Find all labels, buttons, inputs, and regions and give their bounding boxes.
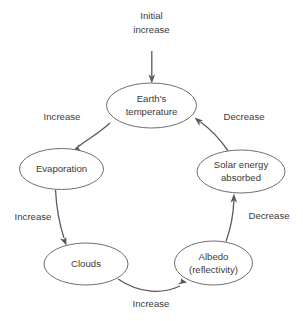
edge-solar-to-temperature xyxy=(195,118,229,151)
edge-label-evaporation-to-clouds: Increase xyxy=(15,211,52,222)
node-label-clouds: Clouds xyxy=(71,258,101,269)
edge-evaporation-to-clouds xyxy=(56,190,67,246)
node-evaporation[interactable]: Evaporation xyxy=(20,149,104,190)
edge-label-albedo-to-solar: Decrease xyxy=(248,210,289,221)
node-label-solar-energy-absorbed-line-2: absorbed xyxy=(221,172,261,183)
node-label-earths-temperature-line-2: temperature xyxy=(126,106,178,117)
edge-arrow-head-solar-to-temperature xyxy=(195,118,204,127)
input-arrow-initial-increase xyxy=(149,51,155,84)
node-label-albedo-reflectivity-line-1: Albedo xyxy=(199,251,229,262)
edge-line-solar-to-temperature xyxy=(201,122,229,151)
node-label-solar-energy-absorbed-line-1: Solar energy xyxy=(214,159,269,170)
diagram-canvas: Initial increase Increase Increase Incre… xyxy=(0,0,303,321)
node-label-evaporation: Evaporation xyxy=(36,163,87,174)
edge-label-temperature-to-evaporation: Increase xyxy=(44,111,81,122)
input-label-line-1: Initial xyxy=(140,10,162,21)
edge-albedo-to-solar xyxy=(226,194,237,242)
node-solar-energy-absorbed[interactable]: Solar energy absorbed xyxy=(197,150,285,193)
node-albedo-reflectivity[interactable]: Albedo (reflectivity) xyxy=(175,241,253,285)
edge-line-clouds-to-albedo xyxy=(118,279,180,291)
node-clouds[interactable]: Clouds xyxy=(44,243,128,285)
node-earths-temperature[interactable]: Earth's temperature xyxy=(107,83,197,128)
edge-line-albedo-to-solar xyxy=(226,201,234,242)
node-label-earths-temperature-line-1: Earth's xyxy=(137,93,167,104)
climate-feedback-diagram: Initial increase Increase Increase Incre… xyxy=(0,0,303,321)
input-label-line-2: increase xyxy=(133,24,169,35)
edge-arrow-head-evaporation-to-clouds xyxy=(60,237,67,245)
edge-clouds-to-albedo xyxy=(118,279,187,292)
edge-arrow-head-clouds-to-albedo xyxy=(177,279,187,285)
edge-line-evaporation-to-clouds xyxy=(56,190,65,238)
edge-label-solar-to-temperature: Decrease xyxy=(223,111,264,122)
node-label-albedo-reflectivity-line-2: (reflectivity) xyxy=(189,264,238,275)
edge-label-clouds-to-albedo: Increase xyxy=(133,298,170,309)
edge-line-temperature-to-evaporation xyxy=(79,123,111,147)
edge-temperature-to-evaporation xyxy=(73,123,111,151)
